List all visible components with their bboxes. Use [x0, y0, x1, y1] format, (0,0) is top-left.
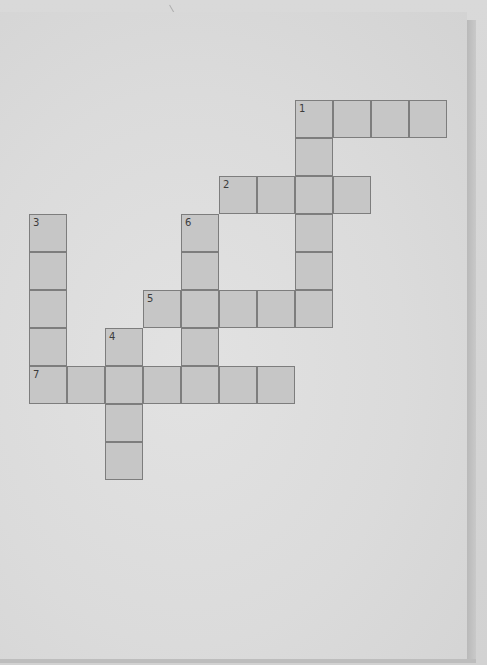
- crossword-cell[interactable]: [181, 290, 219, 328]
- crossword-cell[interactable]: [295, 176, 333, 214]
- crossword-cell[interactable]: 4: [105, 328, 143, 366]
- clue-number: 6: [185, 218, 191, 228]
- crossword-grid: 1237456: [0, 0, 487, 665]
- crossword-cell[interactable]: [295, 138, 333, 176]
- clue-number: 7: [33, 370, 39, 380]
- clue-number: 5: [147, 294, 153, 304]
- crossword-cell[interactable]: 5: [143, 290, 181, 328]
- crossword-cell[interactable]: [219, 366, 257, 404]
- crossword-cell[interactable]: [105, 366, 143, 404]
- crossword-cell[interactable]: [333, 176, 371, 214]
- crossword-cell[interactable]: 3: [29, 214, 67, 252]
- crossword-cell[interactable]: 7: [29, 366, 67, 404]
- clue-number: 1: [299, 104, 305, 114]
- crossword-cell[interactable]: [181, 328, 219, 366]
- crossword-cell[interactable]: [257, 366, 295, 404]
- crossword-cell[interactable]: 2: [219, 176, 257, 214]
- crossword-cell[interactable]: [105, 442, 143, 480]
- crossword-cell[interactable]: [105, 404, 143, 442]
- crossword-cell[interactable]: [295, 214, 333, 252]
- crossword-cell[interactable]: 6: [181, 214, 219, 252]
- crossword-cell[interactable]: [67, 366, 105, 404]
- crossword-cell[interactable]: 1: [295, 100, 333, 138]
- crossword-cell[interactable]: [257, 290, 295, 328]
- crossword-cell[interactable]: [143, 366, 181, 404]
- clue-number: 4: [109, 332, 115, 342]
- crossword-cell[interactable]: [409, 100, 447, 138]
- crossword-cell[interactable]: [333, 100, 371, 138]
- crossword-cell[interactable]: [371, 100, 409, 138]
- clue-number: 3: [33, 218, 39, 228]
- clue-number: 2: [223, 180, 229, 190]
- crossword-cell[interactable]: [29, 328, 67, 366]
- crossword-cell[interactable]: [295, 290, 333, 328]
- crossword-cell[interactable]: [219, 290, 257, 328]
- crossword-cell[interactable]: [29, 290, 67, 328]
- crossword-cell[interactable]: [295, 252, 333, 290]
- crossword-cell[interactable]: [29, 252, 67, 290]
- crossword-cell[interactable]: [181, 366, 219, 404]
- crossword-cell[interactable]: [257, 176, 295, 214]
- crossword-cell[interactable]: [181, 252, 219, 290]
